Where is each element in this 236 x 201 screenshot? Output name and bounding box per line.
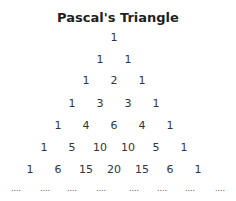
triangle-cell: 1	[44, 118, 72, 134]
triangle-cell: 4	[128, 118, 156, 134]
triangle-cell: 15	[72, 162, 100, 178]
triangle-cell: 6	[156, 162, 184, 178]
ellipsis-marker: ....	[148, 184, 176, 194]
ellipsis-marker: ....	[120, 184, 148, 194]
triangle-cell: 1	[184, 162, 212, 178]
triangle-cell: 1	[30, 140, 58, 156]
ellipsis-marker: ....	[31, 184, 59, 194]
triangle-cell: 1	[142, 96, 170, 112]
triangle-cell: 1	[156, 118, 184, 134]
triangle-cell: 5	[142, 140, 170, 156]
triangle-cell: 1	[128, 73, 156, 89]
continuation-row: ................................	[0, 184, 236, 200]
triangle-cell: 6	[100, 118, 128, 134]
ellipsis-marker: ....	[176, 184, 204, 194]
triangle-cell: 20	[100, 162, 128, 178]
triangle-cell: 15	[128, 162, 156, 178]
ellipsis-marker: ....	[2, 184, 30, 194]
triangle-row-6: 1615201561	[0, 162, 236, 178]
triangle-row-3: 1331	[0, 96, 236, 112]
ellipsis-marker: ....	[206, 184, 234, 194]
triangle-cell: 1	[100, 30, 128, 46]
triangle-row-2: 121	[0, 73, 236, 89]
triangle-cell: 3	[86, 96, 114, 112]
triangle-cell: 10	[86, 140, 114, 156]
triangle-cell: 2	[100, 73, 128, 89]
triangle-row-1: 11	[0, 52, 236, 68]
triangle-cell: 1	[58, 96, 86, 112]
triangle-cell: 1	[86, 52, 114, 68]
triangle-cell: 1	[72, 73, 100, 89]
triangle-cell: 1	[114, 52, 142, 68]
triangle-cell: 10	[114, 140, 142, 156]
triangle-cell: 1	[16, 162, 44, 178]
page-title: Pascal's Triangle	[0, 10, 236, 25]
triangle-row-4: 14641	[0, 118, 236, 134]
triangle-cell: 5	[58, 140, 86, 156]
triangle-cell: 6	[44, 162, 72, 178]
triangle-cell: 1	[170, 140, 198, 156]
ellipsis-marker: ....	[87, 184, 115, 194]
ellipsis-marker: ....	[58, 184, 86, 194]
triangle-cell: 4	[72, 118, 100, 134]
triangle-row-5: 15101051	[0, 140, 236, 156]
triangle-cell: 3	[114, 96, 142, 112]
triangle-row-0: 1	[0, 30, 236, 46]
